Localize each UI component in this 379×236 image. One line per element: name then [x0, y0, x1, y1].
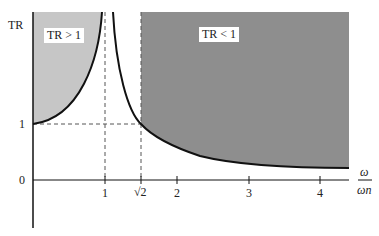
x-tick-2: 2 [174, 187, 180, 199]
x-axis-label-numerator: ω [360, 166, 368, 178]
x-tick-1: 1 [102, 187, 108, 199]
y-axis-label: TR [8, 19, 23, 31]
region-left-label: TR > 1 [44, 28, 84, 43]
x-axis-label-denominator: ωn [357, 184, 371, 196]
y-tick-0: 0 [19, 174, 25, 186]
y-tick-1: 1 [19, 118, 25, 130]
region-right-label: TR < 1 [199, 27, 239, 42]
x-tick-4: 4 [317, 187, 323, 199]
x-tick-sqrt2: √2 [134, 186, 147, 198]
x-tick-3: 3 [246, 187, 252, 199]
